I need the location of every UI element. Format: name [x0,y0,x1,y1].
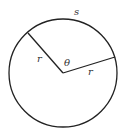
circle-diagram: s r r θ [0,0,124,134]
angle-label: θ [64,57,70,68]
radius-label-right: r [88,66,94,77]
arc-length-label: s [74,6,79,17]
radius-label-left: r [37,53,43,64]
radius-line-left [28,33,63,73]
diagram-canvas: s r r θ [0,0,124,134]
